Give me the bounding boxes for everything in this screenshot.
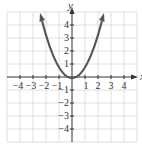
x-tick-label: 2 bbox=[96, 80, 101, 91]
x-tick-label: 1 bbox=[84, 80, 89, 91]
curve-arrow-left-icon bbox=[40, 13, 46, 22]
x-axis-label: x bbox=[139, 70, 142, 82]
curve-arrow-right-icon bbox=[99, 13, 105, 22]
y-tick-label: 3 bbox=[64, 32, 69, 43]
y-tick-label: −4 bbox=[58, 123, 69, 134]
y-tick-label: −2 bbox=[58, 97, 69, 108]
y-tick-label: 2 bbox=[64, 45, 69, 56]
x-tick-label: 3 bbox=[109, 80, 114, 91]
x-tick-label: −4 bbox=[13, 80, 24, 91]
x-tick-labels: −4 −3 −2 −1 1 2 3 4 bbox=[13, 80, 127, 91]
coordinate-plane: x y −4 −3 −2 −1 1 2 3 4 4 3 2 1 −1 −2 −3… bbox=[0, 0, 142, 145]
x-tick-label: −3 bbox=[26, 80, 37, 91]
y-tick-label: 1 bbox=[64, 58, 69, 69]
x-tick-label: 4 bbox=[122, 80, 127, 91]
y-tick-label: −1 bbox=[58, 84, 69, 95]
y-axis-label: y bbox=[67, 0, 73, 11]
x-tick-label: −2 bbox=[39, 80, 50, 91]
axes bbox=[7, 7, 138, 142]
y-tick-label: −3 bbox=[58, 110, 69, 121]
y-tick-label: 4 bbox=[64, 19, 69, 30]
